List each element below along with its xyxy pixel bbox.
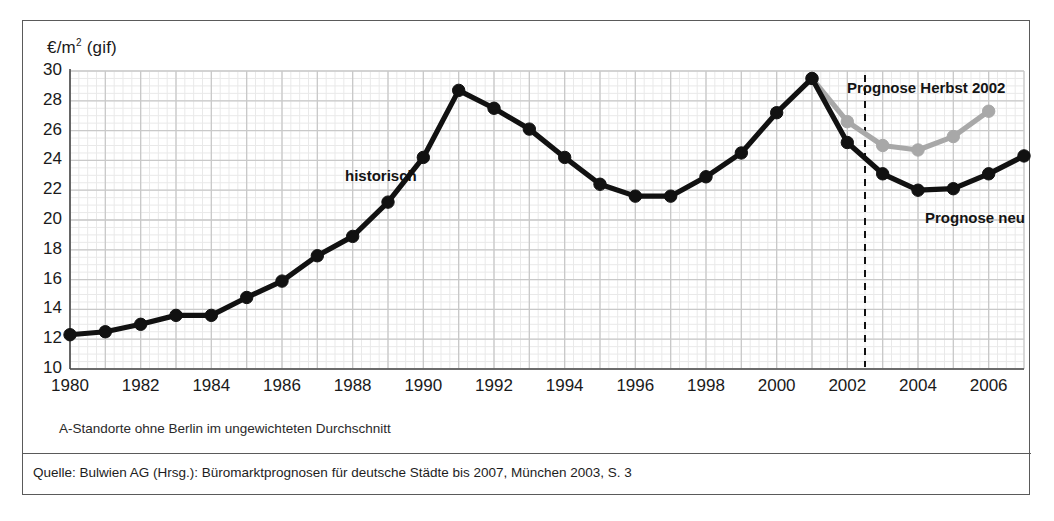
annotation-historisch: historisch — [345, 167, 417, 184]
data-point — [240, 291, 252, 303]
x-tick-label: 1994 — [535, 376, 595, 396]
x-tick-label: 2004 — [888, 376, 948, 396]
data-point — [841, 136, 853, 148]
figure-root: €/m2 (gif) 1012141618202224262830 198019… — [0, 0, 1054, 521]
data-point — [876, 139, 888, 151]
y-tick-label: 10 — [28, 358, 62, 378]
data-point — [982, 105, 994, 117]
x-tick-label: 1990 — [393, 376, 453, 396]
x-tick-label: 1984 — [181, 376, 241, 396]
footer-divider — [23, 453, 1031, 454]
data-point — [523, 123, 535, 135]
data-point — [735, 147, 747, 159]
data-point — [876, 168, 888, 180]
x-tick-label: 1986 — [252, 376, 312, 396]
data-point — [912, 144, 924, 156]
y-tick-label: 26 — [28, 120, 62, 140]
y-tick-label: 28 — [28, 90, 62, 110]
y-tick-label: 24 — [28, 149, 62, 169]
data-point — [346, 230, 358, 242]
x-tick-label: 1982 — [111, 376, 171, 396]
data-point — [841, 115, 853, 127]
data-point — [947, 130, 959, 142]
source-citation: Quelle: Bulwien AG (Hrsg.): Büromarktpro… — [33, 465, 632, 480]
x-tick-label: 1992 — [464, 376, 524, 396]
annotation-prognose-neu: Prognose neu — [925, 209, 1025, 226]
data-point — [664, 190, 676, 202]
data-point — [311, 250, 323, 262]
x-tick-label: 2000 — [747, 376, 807, 396]
y-tick-label: 30 — [28, 60, 62, 80]
chart-area: €/m2 (gif) 1012141618202224262830 198019… — [23, 21, 1031, 496]
chart-frame: €/m2 (gif) 1012141618202224262830 198019… — [22, 20, 1030, 495]
x-tick-label: 1996 — [605, 376, 665, 396]
y-tick-label: 12 — [28, 328, 62, 348]
data-point — [488, 102, 500, 114]
data-point — [134, 318, 146, 330]
data-point — [205, 309, 217, 321]
data-point — [276, 275, 288, 287]
data-point — [806, 72, 818, 84]
chart-footnote: A-Standorte ohne Berlin im ungewichteten… — [59, 421, 391, 436]
data-point — [64, 329, 76, 341]
data-point — [912, 184, 924, 196]
data-point — [1018, 150, 1030, 162]
y-tick-label: 14 — [28, 298, 62, 318]
data-point — [594, 178, 606, 190]
data-point — [558, 151, 570, 163]
data-point — [947, 183, 959, 195]
y-tick-label: 20 — [28, 209, 62, 229]
y-tick-label: 18 — [28, 239, 62, 259]
annotation-prognose-herbst-2002: Prognose Herbst 2002 — [847, 79, 1005, 96]
x-tick-label: 1980 — [40, 376, 100, 396]
y-tick-label: 22 — [28, 179, 62, 199]
data-point — [770, 107, 782, 119]
x-tick-label: 1998 — [676, 376, 736, 396]
y-tick-label: 16 — [28, 269, 62, 289]
x-tick-label: 1988 — [323, 376, 383, 396]
data-point — [417, 151, 429, 163]
data-point — [170, 309, 182, 321]
data-point — [452, 84, 464, 96]
x-tick-label: 2006 — [959, 376, 1019, 396]
data-point — [700, 171, 712, 183]
data-point — [382, 196, 394, 208]
data-point — [629, 190, 641, 202]
data-point — [982, 168, 994, 180]
data-point — [99, 326, 111, 338]
x-tick-label: 2002 — [817, 376, 877, 396]
